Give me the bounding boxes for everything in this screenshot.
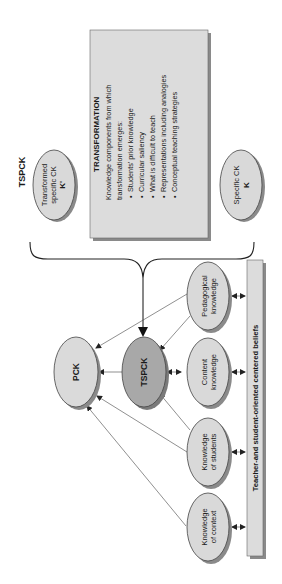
content-knowledge-node: Content knowledge	[187, 338, 232, 409]
node-line2: of context	[209, 510, 218, 543]
transformed-ck-line2: specific CK	[49, 166, 58, 204]
node-line1: Content	[200, 358, 209, 385]
tspck-label: TSPCK	[139, 357, 149, 387]
pck-node: PCK	[54, 337, 101, 410]
transformation-item: Students' prior knowledge	[126, 108, 135, 192]
node-line1: Knowledge	[200, 508, 209, 545]
bullet-1: •	[126, 195, 135, 198]
node-line1: Pedagogical	[200, 275, 209, 317]
transformation-box: TRANSFORMATION Knowledge components from…	[90, 30, 211, 241]
bullet-4: •	[159, 195, 168, 198]
node-line2: of students	[209, 433, 218, 470]
specific-ck-line1: Specific CK	[232, 166, 241, 205]
bullet-5: •	[170, 195, 179, 198]
specific-ck-node: Specific CK K	[220, 150, 265, 222]
transformation-intro-2: transformation emerges:	[115, 121, 124, 200]
pedagogical-knowledge-node: Pedagogical knowledge	[187, 262, 232, 333]
bullet-3: •	[148, 195, 157, 198]
transformation-item: Curricular saliency	[137, 132, 146, 192]
node-line2: knowledge	[209, 354, 218, 390]
transformation-item: Representations including analogies	[159, 74, 168, 192]
transformation-intro-1: Knowledge components from which	[104, 85, 113, 200]
transformed-ck-line1: Transformed	[40, 164, 49, 206]
knowledge-of-context-node: Knowledge of context	[187, 493, 232, 564]
pck-label: PCK	[71, 362, 81, 381]
beliefs-label: Teacher-and student-oriented centered be…	[251, 325, 260, 492]
tspck-diagram: TSPCK Transformed specific CK K' TRANSFO…	[0, 0, 282, 584]
node-line1: Knowledge	[200, 433, 209, 470]
knowledge-of-students-node: Knowledge of students	[187, 418, 232, 489]
transformation-item: What is difficult to teach	[148, 115, 157, 192]
tspck-top-label: TSPCK	[17, 156, 27, 187]
transformed-specific-ck-node: Transformed specific CK K'	[33, 150, 78, 222]
node-line2: knowledge	[209, 278, 218, 314]
transformation-item: Conceptual teaching strategies	[170, 91, 179, 192]
transformed-ck-symbol: K'	[58, 181, 67, 189]
transformation-title: TRANSFORMATION	[92, 96, 101, 172]
connectors	[87, 294, 245, 527]
bullet-2: •	[137, 195, 146, 198]
beliefs-bar: Teacher-and student-oriented centered be…	[247, 260, 266, 559]
specific-ck-symbol: K	[242, 182, 251, 188]
